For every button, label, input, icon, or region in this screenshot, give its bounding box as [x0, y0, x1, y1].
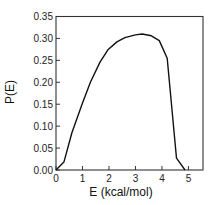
x-tick-label: 1	[80, 173, 86, 184]
chart: 012345 0.000.050.100.150.200.250.300.35 …	[0, 0, 215, 205]
plot-area-border	[56, 17, 203, 171]
y-tick-label: 0.20	[34, 77, 54, 88]
x-axis-ticks: 012345	[53, 166, 191, 184]
series-line	[56, 34, 185, 170]
y-tick-label: 0.25	[34, 55, 54, 66]
y-tick-label: 0.30	[34, 33, 54, 44]
y-tick-label: 0.35	[34, 11, 54, 22]
x-tick-label: 5	[186, 173, 192, 184]
y-tick-label: 0.00	[34, 165, 54, 176]
plot-frame	[56, 17, 203, 171]
y-tick-label: 0.15	[34, 99, 54, 110]
x-tick-label: 4	[159, 173, 165, 184]
x-tick-label: 2	[106, 173, 112, 184]
x-axis-label: E (kcal/mol)	[89, 185, 152, 199]
y-tick-label: 0.05	[34, 143, 54, 154]
data-series	[56, 34, 185, 170]
x-tick-label: 3	[133, 173, 139, 184]
y-tick-label: 0.10	[34, 121, 54, 132]
y-axis-label: P(E)	[3, 80, 17, 104]
x-tick-label: 0	[53, 173, 59, 184]
